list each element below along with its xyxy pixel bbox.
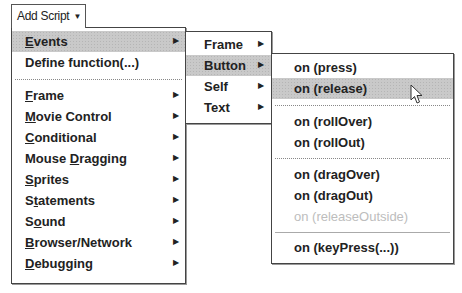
menu-separator [275,158,450,159]
button-item-rollover[interactable]: on (rollOver) [272,111,453,132]
triangle-right-icon: ▶ [173,132,179,141]
triangle-right-icon: ▶ [173,111,179,120]
button-item-press[interactable]: on (press) [272,57,453,78]
menu-separator [15,79,182,80]
triangle-right-icon: ▶ [258,81,264,90]
events-item-self[interactable]: Self ▶ [186,76,271,97]
caret-down-icon: ▼ [73,12,81,21]
events-item-button[interactable]: Button ▶ [186,55,271,76]
events-item-frame[interactable]: Frame ▶ [186,34,271,55]
button-item-dragover[interactable]: on (dragOver) [272,164,453,185]
triangle-right-icon: ▶ [173,153,179,162]
button-item-release[interactable]: on (release) [272,78,453,99]
menu-item-sound[interactable]: Sound ▶ [12,211,185,232]
add-script-label: Add Script [17,9,69,23]
triangle-right-icon: ▶ [173,237,179,246]
events-submenu: Frame ▶ Button ▶ Self ▶ Text ▶ [185,31,272,124]
button-item-release-outside: on (releaseOutside) [272,206,453,227]
triangle-right-icon: ▶ [173,36,179,45]
menu-item-debugging[interactable]: Debugging ▶ [12,253,185,274]
menu-separator [275,232,450,233]
button-item-keypress[interactable]: on (keyPress(...)) [272,237,453,258]
button-item-dragout[interactable]: on (dragOut) [272,185,453,206]
events-item-text[interactable]: Text ▶ [186,97,271,118]
arrow-cursor-icon [410,84,424,106]
menu-item-conditional[interactable]: Conditional ▶ [12,127,185,148]
menu-item-sprites[interactable]: Sprites ▶ [12,169,185,190]
menu-item-events[interactable]: Events ▶ [12,31,185,52]
triangle-right-icon: ▶ [173,258,179,267]
triangle-right-icon: ▶ [173,90,179,99]
button-submenu: on (press) on (release) on (rollOver) on… [271,53,454,264]
menu-item-mouse-dragging[interactable]: Mouse Dragging ▶ [12,148,185,169]
triangle-right-icon: ▶ [258,60,264,69]
menu-item-define-function[interactable]: Define function(...) [12,52,185,73]
triangle-right-icon: ▶ [258,39,264,48]
triangle-right-icon: ▶ [173,174,179,183]
triangle-right-icon: ▶ [173,195,179,204]
menu-item-movie-control[interactable]: Movie Control ▶ [12,106,185,127]
add-script-menu: Events ▶ Define function(...) Frame ▶ Mo… [11,27,186,284]
triangle-right-icon: ▶ [258,102,264,111]
triangle-right-icon: ▶ [173,216,179,225]
menu-item-statements[interactable]: Statements ▶ [12,190,185,211]
menu-item-browser-network[interactable]: Browser/Network ▶ [12,232,185,253]
button-item-rollout[interactable]: on (rollOut) [272,132,453,153]
menu-item-frame[interactable]: Frame ▶ [12,85,185,106]
add-script-button[interactable]: Add Script▼ [11,4,86,28]
